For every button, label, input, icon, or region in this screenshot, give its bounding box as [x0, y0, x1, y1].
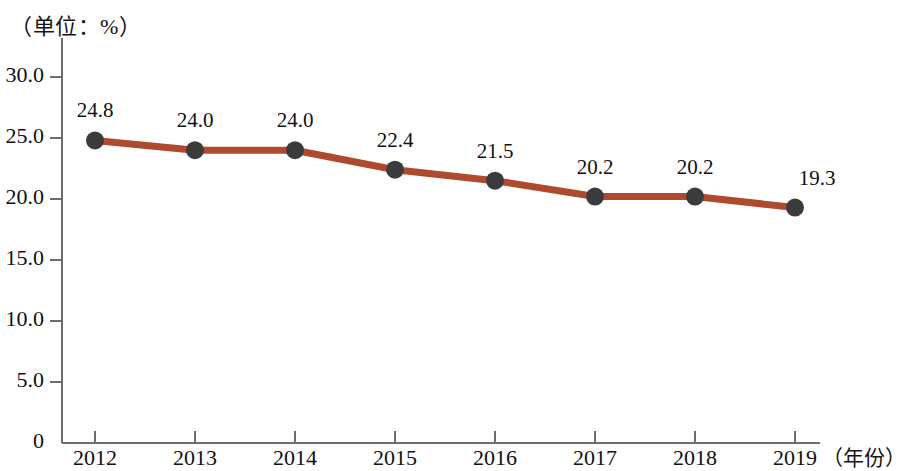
y-axis-tick-label: 20.0: [0, 184, 44, 210]
data-point-label: 22.4: [355, 128, 435, 153]
data-point-label: 24.8: [55, 98, 135, 123]
x-axis-ticks: [95, 431, 795, 443]
y-axis-tick-label: 10.0: [0, 306, 44, 332]
data-point-marker: [786, 199, 804, 217]
data-point-marker: [86, 131, 104, 149]
data-point-label: 20.2: [655, 155, 735, 180]
x-axis-tick-label: 2017: [550, 445, 640, 471]
plot-area: [0, 0, 905, 471]
y-axis-tick-label: 0: [0, 428, 44, 454]
y-axis-tick-label: 15.0: [0, 245, 44, 271]
y-axis-tick-label: 25.0: [0, 123, 44, 149]
x-axis-tick-label: 2014: [250, 445, 340, 471]
data-point-marker: [286, 141, 304, 159]
y-axis-tick-label: 30.0: [0, 62, 44, 88]
data-point-label: 24.0: [255, 108, 335, 133]
y-axis-tick-label: 5.0: [0, 367, 44, 393]
x-axis-tick-label: 2012: [50, 445, 140, 471]
x-axis-tick-label: 2018: [650, 445, 740, 471]
x-axis-tick-label: 2013: [150, 445, 240, 471]
x-axis-tick-label: 2015: [350, 445, 440, 471]
data-point-label: 24.0: [155, 108, 235, 133]
x-axis-tick-label: 2016: [450, 445, 540, 471]
data-point-label: 21.5: [455, 139, 535, 164]
data-point-marker: [686, 188, 704, 206]
line-chart: （单位：%） 05.010.015.020.025.030.0 20122013…: [0, 0, 905, 471]
data-point-label: 20.2: [555, 155, 635, 180]
data-point-label: 19.3: [777, 166, 857, 191]
data-point-marker: [386, 161, 404, 179]
x-axis-title: （年份）: [822, 441, 905, 471]
data-point-marker: [186, 141, 204, 159]
data-point-marker: [586, 188, 604, 206]
data-point-marker: [486, 172, 504, 190]
